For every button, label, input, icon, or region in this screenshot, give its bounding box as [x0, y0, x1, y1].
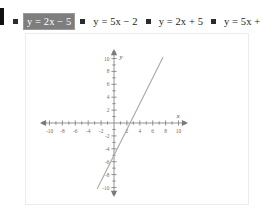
- svg-text:-10: -10: [102, 185, 109, 191]
- answer-choice-3[interactable]: y = 5x + 2: [206, 12, 262, 30]
- left-edge-strip: [0, 8, 4, 25]
- answer-choice-2[interactable]: y = 2x + 5: [141, 12, 206, 30]
- svg-text:8: 8: [164, 128, 167, 134]
- svg-text:8: 8: [107, 68, 110, 74]
- answer-choice-0[interactable]: y = 2x − 5: [8, 12, 75, 30]
- svg-text:2: 2: [107, 107, 110, 113]
- svg-text:-4: -4: [86, 128, 91, 134]
- answer-choice-label: y = 2x + 5: [156, 13, 206, 30]
- graph-panel: -10-8-6-4-2246810108642-2-4-6-8-10 xy: [25, 33, 249, 205]
- answer-choice-list: y = 2x − 5 y = 5x − 2 y = 2x + 5 y = 5x …: [8, 10, 260, 32]
- answer-choice-label: y = 5x + 2: [221, 13, 262, 30]
- answer-choice-label: y = 2x − 5: [23, 13, 75, 30]
- bullet-square-icon: [13, 19, 18, 24]
- chart-axis-names: xy: [118, 53, 180, 120]
- svg-text:x: x: [175, 112, 180, 120]
- page-root: y = 2x − 5 y = 5x − 2 y = 2x + 5 y = 5x …: [0, 0, 262, 217]
- svg-text:4: 4: [138, 128, 141, 134]
- svg-text:10: 10: [176, 128, 182, 134]
- coordinate-plane-chart: -10-8-6-4-2246810108642-2-4-6-8-10 xy: [26, 34, 248, 204]
- svg-text:-2: -2: [99, 128, 104, 134]
- svg-text:6: 6: [151, 128, 154, 134]
- svg-text:-8: -8: [60, 128, 65, 134]
- svg-text:-4: -4: [105, 146, 110, 152]
- svg-text:6: 6: [107, 81, 110, 87]
- bullet-square-icon: [146, 19, 151, 24]
- svg-text:-6: -6: [105, 159, 110, 165]
- svg-text:-6: -6: [73, 128, 78, 134]
- svg-text:10: 10: [104, 56, 110, 62]
- bullet-square-icon: [80, 19, 85, 24]
- svg-text:y: y: [118, 53, 123, 61]
- svg-text:-2: -2: [105, 133, 110, 139]
- svg-text:4: 4: [107, 94, 110, 100]
- answer-choice-label: y = 5x − 2: [90, 13, 140, 30]
- answer-choice-1[interactable]: y = 5x − 2: [75, 12, 140, 30]
- svg-text:-10: -10: [46, 128, 53, 134]
- bullet-square-icon: [211, 19, 216, 24]
